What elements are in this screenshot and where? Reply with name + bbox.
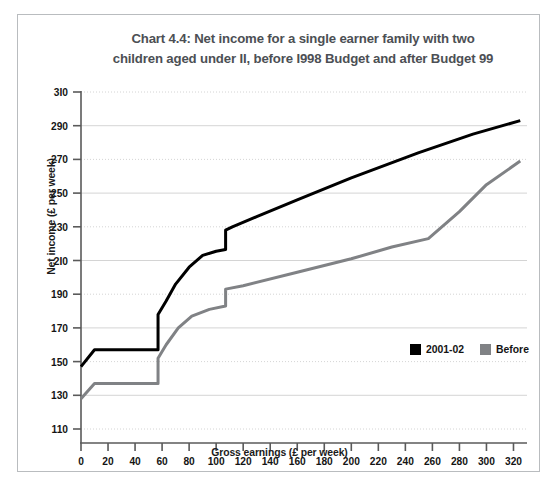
legend-swatch-0 [410, 344, 421, 355]
y-axis-label: Net income (£ per week) [46, 142, 57, 292]
x-axis-label: Gross earnings (£ per week) [18, 447, 541, 458]
chart-figure: Chart 4.4: Net income for a single earne… [17, 14, 540, 472]
y-axis-tick-label: 150 [51, 357, 68, 368]
legend-label-0: 2001-02 [426, 344, 464, 355]
plot-area: 1101301501701902I02302502702903I00204060… [18, 15, 541, 473]
y-axis-tick-label: 170 [51, 323, 68, 334]
legend-swatch-1 [480, 344, 491, 355]
y-axis-tick-label: 290 [51, 121, 68, 132]
y-axis-tick-label: 110 [52, 424, 69, 435]
y-axis-tick-label: 3I0 [54, 87, 68, 98]
y-axis-tick-label: 130 [51, 390, 68, 401]
series-line-2001-02 [81, 121, 520, 367]
legend-label-1: Before [496, 344, 529, 355]
chart-plot-svg: 1101301501701902I02302502702903I00204060… [18, 15, 541, 473]
series-line-before [81, 161, 520, 399]
